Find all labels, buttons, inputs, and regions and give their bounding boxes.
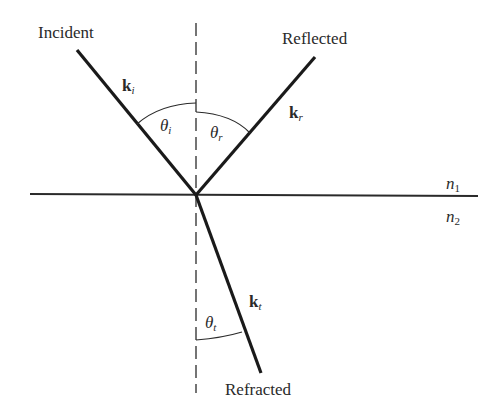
n2-label: n2 xyxy=(446,207,460,227)
k-i-label: ki xyxy=(122,76,135,96)
reflected-arrow-icon xyxy=(258,103,276,123)
refracted-ray xyxy=(196,195,261,373)
incident-label: Incident xyxy=(38,23,94,42)
refracted-label: Refracted xyxy=(225,380,292,399)
interface-line xyxy=(30,194,478,196)
refracted-arrow-icon xyxy=(225,275,236,306)
theta-t-arc xyxy=(196,332,242,340)
reflection-refraction-diagram: Incident Reflected Refracted ki kr kt θi… xyxy=(0,0,500,415)
incident-arrow-icon xyxy=(95,72,115,96)
theta-i-label: θi xyxy=(160,116,171,136)
k-t-label: kt xyxy=(249,292,262,312)
theta-t-label: θt xyxy=(205,313,217,333)
n1-label: n1 xyxy=(446,174,460,194)
k-r-label: kr xyxy=(289,103,303,123)
theta-r-label: θr xyxy=(210,123,223,143)
reflected-label: Reflected xyxy=(282,29,348,48)
incident-ray xyxy=(77,50,196,195)
theta-r-arc xyxy=(196,112,250,133)
